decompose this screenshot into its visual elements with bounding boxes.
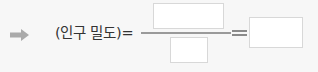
result-input-box[interactable] [249, 17, 303, 48]
denominator-input-box[interactable] [170, 37, 208, 63]
population-density-label: (인구 밀도)= [55, 24, 133, 42]
equals-sign [232, 30, 247, 37]
numerator-input-box[interactable] [153, 3, 224, 29]
right-arrow-icon [10, 29, 29, 41]
fraction-line [141, 32, 231, 34]
